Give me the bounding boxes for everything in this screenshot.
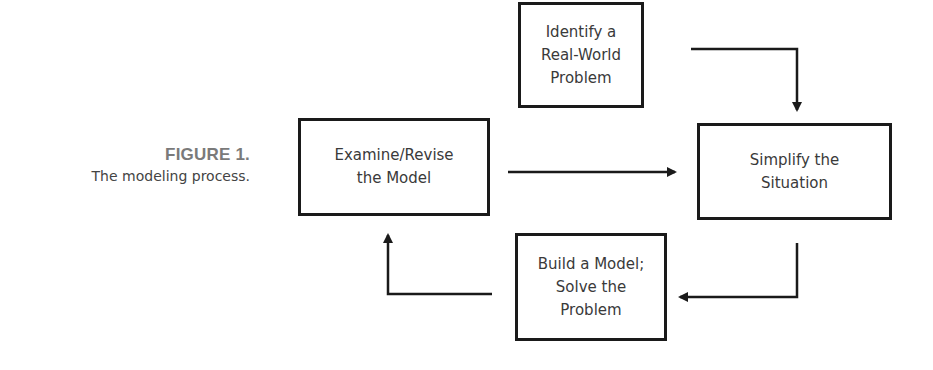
flow-arrows xyxy=(0,0,933,370)
arrow-simplify-to-build xyxy=(680,243,797,297)
arrow-build-to-examine xyxy=(388,235,492,294)
arrow-identify-to-simplify xyxy=(691,49,797,110)
